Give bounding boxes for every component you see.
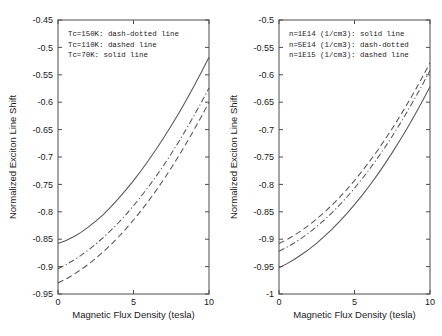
curve-solid bbox=[279, 87, 430, 268]
x-axis-label: Magnetic Flux Density (tesla) bbox=[72, 309, 194, 320]
y-tick-label: -0.95 bbox=[32, 289, 53, 299]
y-tick-label: -0.9 bbox=[37, 262, 53, 272]
curve-solid bbox=[58, 57, 209, 243]
y-tick-label: -0.85 bbox=[32, 234, 53, 244]
y-tick-label: -0.75 bbox=[32, 180, 53, 190]
y-tick-label: -0.5 bbox=[258, 15, 274, 25]
y-axis-label: Normalized Exciton Line Shift bbox=[228, 95, 239, 219]
y-tick-label: -0.65 bbox=[32, 125, 53, 135]
y-tick-label: -0.55 bbox=[253, 43, 274, 53]
y-tick-label: -0.7 bbox=[258, 125, 274, 135]
y-tick-label: -0.8 bbox=[37, 207, 53, 217]
figure-container: -0.95-0.9-0.85-0.8-0.75-0.7-0.65-0.6-0.5… bbox=[0, 0, 442, 336]
chart-svg-right: -1-0.95-0.9-0.85-0.8-0.75-0.7-0.65-0.6-0… bbox=[221, 0, 442, 336]
x-tick-label: 5 bbox=[131, 297, 136, 307]
plot-area-left: -0.95-0.9-0.85-0.8-0.75-0.7-0.65-0.6-0.5… bbox=[7, 15, 214, 320]
x-tick-label: 0 bbox=[276, 297, 281, 307]
y-tick-label: -0.65 bbox=[253, 97, 274, 107]
legend-entry: Tc=70K: solid line bbox=[68, 51, 148, 59]
x-tick-label: 10 bbox=[204, 297, 214, 307]
chart-panel-right: -1-0.95-0.9-0.85-0.8-0.75-0.7-0.65-0.6-0… bbox=[221, 0, 442, 336]
legend-entry: n=1E15 (1/cm3): dashed line bbox=[289, 51, 409, 59]
plot-frame bbox=[58, 20, 209, 294]
y-tick-label: -0.5 bbox=[37, 43, 53, 53]
plot-area-right: -1-0.95-0.9-0.85-0.8-0.75-0.7-0.65-0.6-0… bbox=[228, 15, 435, 320]
x-tick-label: 5 bbox=[352, 297, 357, 307]
y-tick-label: -0.9 bbox=[258, 234, 274, 244]
y-tick-label: -0.8 bbox=[258, 180, 274, 190]
x-tick-label: 0 bbox=[55, 297, 60, 307]
legend-entry: Tc=150K: dash-dotted line bbox=[68, 30, 179, 38]
chart-panel-left: -0.95-0.9-0.85-0.8-0.75-0.7-0.65-0.6-0.5… bbox=[0, 0, 221, 336]
y-tick-label: -0.6 bbox=[37, 97, 53, 107]
y-tick-label: -0.55 bbox=[32, 70, 53, 80]
plot-frame bbox=[279, 20, 430, 294]
y-tick-label: -0.75 bbox=[253, 152, 274, 162]
y-tick-label: -0.6 bbox=[258, 70, 274, 80]
curve-dashed bbox=[279, 63, 430, 244]
y-tick-label: -1 bbox=[266, 289, 274, 299]
legend-entry: n=5E14 (1/cm3): dash-dotted bbox=[289, 41, 409, 49]
curve-dash-dotted bbox=[58, 88, 209, 269]
y-axis-label: Normalized Exciton Line Shift bbox=[7, 95, 18, 219]
x-axis-label: Magnetic Flux Density (tesla) bbox=[293, 309, 415, 320]
y-tick-label: -0.7 bbox=[37, 152, 53, 162]
curve-dash-dotted bbox=[279, 70, 430, 251]
y-tick-label: -0.45 bbox=[32, 15, 53, 25]
y-tick-label: -0.95 bbox=[253, 262, 274, 272]
y-tick-label: -0.85 bbox=[253, 207, 274, 217]
legend-entry: Tc=110K: dashed line bbox=[68, 41, 157, 49]
x-tick-label: 10 bbox=[425, 297, 435, 307]
chart-svg-left: -0.95-0.9-0.85-0.8-0.75-0.7-0.65-0.6-0.5… bbox=[0, 0, 221, 336]
legend-entry: n=1E14 (1/cm3): solid line bbox=[289, 30, 404, 38]
